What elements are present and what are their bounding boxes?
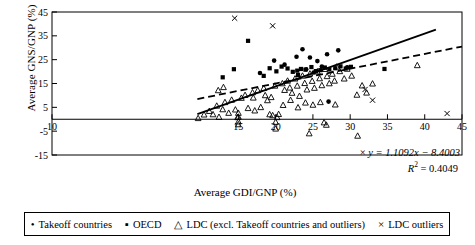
data-point-triangle (310, 102, 316, 107)
data-point-square (382, 67, 386, 71)
tick-labels: 453525155-5-151015202530354045 (35, 7, 467, 161)
data-point-triangle (276, 111, 282, 116)
data-point-triangle (258, 104, 264, 109)
data-point-triangle (317, 75, 323, 80)
data-point-circle (294, 55, 299, 60)
data-point-triangle (220, 106, 226, 111)
x-tick-label: 15 (233, 121, 243, 132)
data-point-circle (300, 47, 305, 52)
y-tick-label: 25 (38, 54, 48, 65)
y-tick-label: 15 (38, 78, 48, 89)
data-point-triangle (216, 114, 222, 119)
circle-marker-icon: • (31, 219, 35, 230)
equation-text: y = 1.1092x − 8.4003 (368, 147, 460, 158)
data-point-triangle (319, 82, 325, 87)
data-point-triangle (370, 81, 376, 86)
x-tick-label: 20 (271, 121, 281, 132)
data-point-triangle (332, 78, 338, 83)
data-point-square (291, 70, 295, 74)
data-point-triangle (195, 115, 201, 120)
legend-item-takeoff-countries: • Takeoff countries (31, 219, 112, 230)
data-point-square (299, 67, 303, 71)
data-point-square (349, 65, 353, 69)
data-point-cross (270, 23, 275, 28)
data-point-triangle (309, 78, 315, 83)
square-marker-icon: ▪ (125, 219, 129, 230)
data-point-triangle (287, 85, 293, 90)
data-point-triangle (280, 102, 286, 107)
scatter-plot: 453525155-5-151015202530354045 (0, 0, 475, 245)
legend-label: Takeoff countries (39, 219, 112, 230)
data-point-triangle (221, 84, 227, 89)
data-point-triangle (302, 80, 308, 85)
trendline-dashed (197, 47, 462, 99)
data-point-square (303, 68, 307, 72)
r-squared-value: = 0.4049 (418, 163, 458, 174)
data-point-triangle (288, 97, 294, 102)
data-point-square (285, 66, 289, 70)
data-point-circle (258, 71, 263, 76)
data-point-cross (444, 111, 449, 116)
data-points (195, 16, 449, 139)
data-point-triangle (304, 87, 310, 92)
data-point-triangle (341, 76, 347, 81)
data-point-triangle (354, 92, 360, 97)
data-point-triangle (252, 108, 258, 113)
y-tick-label: 45 (38, 7, 48, 18)
x-tick-label: 40 (420, 121, 430, 132)
data-point-triangle (262, 92, 268, 97)
data-point-triangle (303, 100, 309, 105)
legend-item-ldc: △ LDC (excl. Takeoff countries and outli… (174, 219, 365, 230)
x-tick-label: 45 (457, 121, 467, 132)
chart-figure: Average GNS/GNP (%) 453525155-5-15101520… (0, 0, 475, 245)
legend-item-oecd: ▪ OECD (125, 219, 162, 230)
x-tick-label: 30 (345, 121, 355, 132)
data-point-cross (370, 98, 375, 103)
data-point-circle (315, 59, 320, 64)
data-point-triangle (297, 93, 303, 98)
x-tick-label: 10 (47, 121, 57, 132)
data-point-square (221, 75, 225, 79)
data-point-square (309, 65, 313, 69)
x-tick-label: 35 (382, 121, 392, 132)
data-point-square (296, 73, 300, 77)
data-point-triangle (210, 111, 216, 116)
chart-legend: • Takeoff countries ▪ OECD △ LDC (excl. … (24, 212, 450, 236)
data-point-square (246, 39, 250, 43)
data-point-circle (326, 99, 331, 104)
legend-item-ldc-outliers: × LDC outliers (378, 219, 443, 230)
y-tick-label: -15 (35, 150, 48, 161)
equation-marker-icon: × (360, 147, 366, 158)
equation-annotation: × y = 1.1092x − 8.4003 R2 = 0.4049 (320, 147, 460, 175)
plot-axes (52, 12, 462, 155)
data-point-circle (308, 55, 313, 60)
data-point-triangle (332, 102, 338, 107)
data-point-circle (272, 58, 277, 63)
legend-label: LDC outliers (388, 219, 443, 230)
x-axis-title: Average GDI/GNP (%) (170, 186, 320, 198)
data-point-square (280, 64, 284, 68)
data-point-triangle (359, 83, 365, 88)
data-point-square (295, 69, 299, 73)
data-point-circle (325, 52, 330, 57)
data-point-cross (232, 16, 237, 21)
legend-label: LDC (excl. Takeoff countries and outlier… (186, 219, 365, 230)
data-point-triangle (349, 73, 355, 78)
data-point-triangle (226, 110, 232, 115)
data-point-triangle (294, 83, 300, 88)
data-point-triangle (317, 99, 323, 104)
data-point-triangle (355, 133, 361, 138)
data-point-square (274, 69, 278, 73)
data-point-triangle (289, 90, 295, 95)
data-point-triangle (295, 104, 301, 109)
data-point-square (232, 67, 236, 71)
legend-label: OECD (133, 219, 162, 230)
cross-marker-icon: × (378, 219, 384, 230)
x-tick-label: 25 (308, 121, 318, 132)
triangle-marker-icon: △ (174, 219, 182, 230)
data-point-triangle (414, 62, 420, 67)
y-tick-label: 5 (43, 102, 48, 113)
data-point-triangle (245, 105, 251, 110)
y-tick-label: 35 (38, 30, 48, 41)
data-point-square (262, 74, 266, 78)
